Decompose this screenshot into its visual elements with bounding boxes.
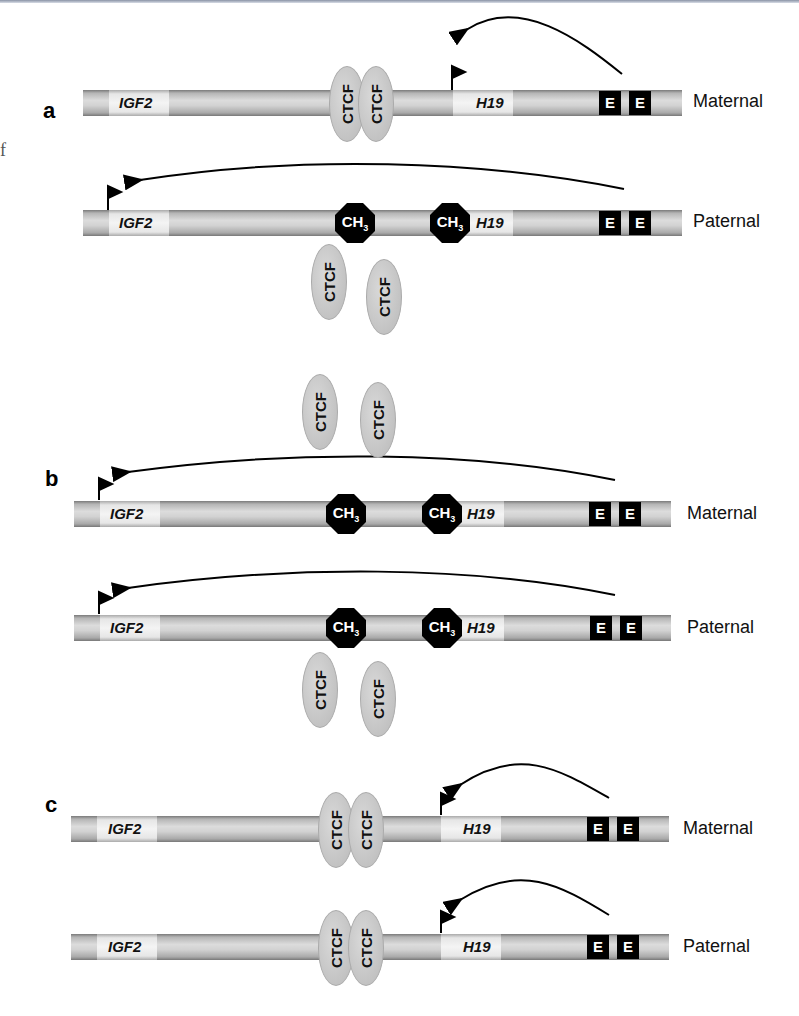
gene-h19-label: H19 bbox=[463, 820, 491, 837]
gene-igf2-label: IGF2 bbox=[119, 214, 152, 231]
allele-label-b-paternal: Paternal bbox=[687, 617, 754, 638]
allele-label-a-paternal: Paternal bbox=[693, 211, 760, 232]
gene-h19-label: H19 bbox=[476, 214, 504, 231]
enhancer-2: E bbox=[629, 211, 651, 235]
panel-label-a: a bbox=[43, 98, 55, 124]
arrow-b-paternal bbox=[128, 572, 615, 595]
gene-h19-label: H19 bbox=[467, 505, 495, 522]
gene-igf2-label: IGF2 bbox=[108, 820, 141, 837]
allele-label-b-maternal: Maternal bbox=[687, 503, 757, 524]
enhancer-2: E bbox=[620, 616, 642, 640]
gene-h19-label: H19 bbox=[467, 619, 495, 636]
dna-bar bbox=[74, 615, 671, 641]
gene-h19-label: H19 bbox=[463, 938, 491, 955]
panel-label-b: b bbox=[45, 466, 58, 492]
arrow-c-maternal bbox=[460, 764, 609, 798]
methyl-group-3: CH3 bbox=[326, 494, 366, 534]
enhancer-2: E bbox=[619, 502, 641, 526]
methyl-group-6: CH3 bbox=[422, 608, 462, 648]
methyl-group-1: CH3 bbox=[335, 203, 375, 243]
ctcf-unbound-6: CTCF bbox=[360, 661, 396, 737]
dna-bar bbox=[83, 210, 682, 236]
arrow-a-maternal bbox=[466, 17, 622, 74]
strand-b-maternal: IGF2 H19 E E bbox=[74, 501, 671, 527]
allele-label-a-maternal: Maternal bbox=[693, 91, 763, 112]
flag-b-paternal bbox=[99, 592, 112, 614]
panel-label-c: c bbox=[45, 792, 57, 818]
methyl-group-5: CH3 bbox=[326, 608, 366, 648]
ctcf-bound-6: CTCF bbox=[348, 910, 384, 986]
gene-igf2-label: IGF2 bbox=[119, 94, 152, 111]
ctcf-unbound-2: CTCF bbox=[366, 259, 402, 335]
arrow-c-paternal bbox=[460, 880, 609, 915]
dna-bar bbox=[74, 501, 671, 527]
flag-c-paternal bbox=[441, 911, 454, 933]
ctcf-unbound-4: CTCF bbox=[360, 382, 396, 458]
ctcf-bound-4: CTCF bbox=[348, 792, 384, 868]
enhancer-2: E bbox=[629, 91, 651, 115]
enhancer-2: E bbox=[617, 935, 639, 959]
arrow-a-paternal bbox=[140, 164, 624, 189]
arrow-b-maternal bbox=[128, 456, 615, 480]
enhancer-2: E bbox=[617, 817, 639, 841]
gene-igf2-label: IGF2 bbox=[108, 938, 141, 955]
enhancer-1: E bbox=[587, 935, 609, 959]
enhancer-1: E bbox=[599, 91, 621, 115]
ctcf-bound-2: CTCF bbox=[358, 66, 394, 142]
ctcf-unbound-1: CTCF bbox=[311, 244, 347, 320]
ctcf-unbound-3: CTCF bbox=[302, 374, 338, 450]
enhancer-1: E bbox=[589, 502, 611, 526]
flag-a-maternal bbox=[452, 66, 465, 90]
flag-b-maternal bbox=[99, 478, 112, 500]
enhancer-1: E bbox=[590, 616, 612, 640]
allele-label-c-maternal: Maternal bbox=[683, 818, 753, 839]
flag-a-paternal bbox=[108, 186, 121, 210]
enhancer-1: E bbox=[587, 817, 609, 841]
methyl-group-2: CH3 bbox=[430, 203, 470, 243]
flag-c-maternal bbox=[441, 793, 454, 815]
strand-a-paternal: IGF2 H19 E E bbox=[83, 210, 682, 236]
gene-igf2-label: IGF2 bbox=[110, 505, 143, 522]
gene-h19-label: H19 bbox=[476, 94, 504, 111]
methyl-group-4: CH3 bbox=[422, 494, 462, 534]
gene-igf2-label: IGF2 bbox=[110, 619, 143, 636]
allele-label-c-paternal: Paternal bbox=[683, 936, 750, 957]
strand-b-paternal: IGF2 H19 E E bbox=[74, 615, 671, 641]
ctcf-unbound-5: CTCF bbox=[302, 652, 338, 728]
enhancer-1: E bbox=[599, 211, 621, 235]
